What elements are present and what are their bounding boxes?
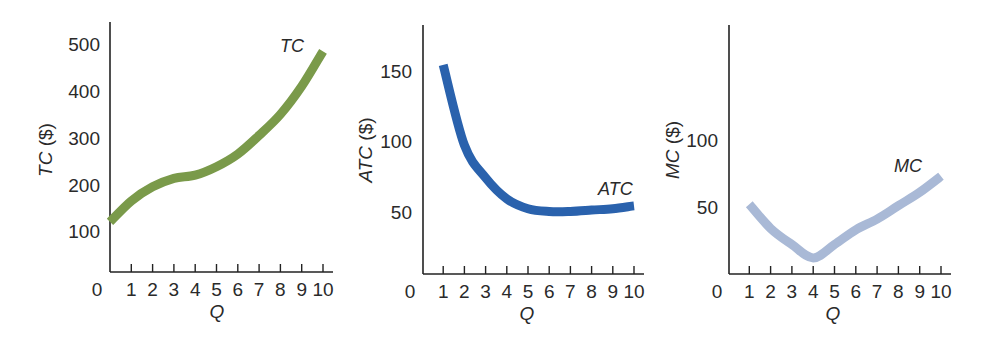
y-tick-label: 200: [68, 175, 100, 196]
y-tick-label: 300: [68, 128, 100, 149]
x-tick-label: 2: [459, 281, 470, 302]
x-tick-label: 1: [126, 279, 137, 300]
y-tick-label: 50: [391, 202, 412, 223]
mc-curve: [749, 176, 941, 258]
y-tick-label: 100: [380, 131, 412, 152]
x-tick-label: 2: [765, 281, 776, 302]
y-tick-label: 150: [380, 61, 412, 82]
x-tick-label: 4: [190, 279, 201, 300]
marginal-cost-chart: 12345678910050100QMC ($)MC: [662, 25, 952, 324]
average-total-cost-chart: 12345678910050100150QATC ($)ATC: [355, 25, 645, 324]
x-tick-label: 2: [147, 279, 158, 300]
x-tick-label: 9: [914, 281, 925, 302]
x-tick-label: 8: [586, 281, 597, 302]
x-tick-label: 9: [296, 279, 307, 300]
y-axis-title-name: MC: [662, 149, 683, 179]
x-tick-label: 3: [169, 279, 180, 300]
origin-label: 0: [712, 281, 723, 302]
y-tick-label: 400: [68, 81, 100, 102]
y-axis-title-name: TC: [35, 151, 56, 177]
x-tick-label: 7: [565, 281, 576, 302]
x-tick-label: 6: [544, 281, 555, 302]
x-tick-label: 5: [829, 281, 840, 302]
x-tick-label: 10: [312, 279, 333, 300]
x-tick-label: 1: [438, 281, 449, 302]
cost-curves-figure: 123456789100100200300400500QTC ($)TC 123…: [0, 0, 986, 342]
x-tick-label: 6: [851, 281, 862, 302]
atc-curve-label: ATC: [597, 179, 634, 199]
y-tick-label: 500: [68, 34, 100, 55]
y-tick-label: 100: [68, 221, 100, 242]
tc-curve-label: TC: [280, 36, 305, 56]
y-tick-label: 100: [686, 130, 718, 151]
y-axis-title-unit: ($): [35, 123, 56, 152]
x-axis-title: Q: [210, 301, 225, 322]
x-tick-label: 3: [480, 281, 491, 302]
x-tick-label: 10: [623, 281, 644, 302]
mc-curve-label: MC: [894, 156, 923, 176]
x-tick-label: 5: [211, 279, 222, 300]
y-axis-title-unit: ($): [662, 121, 683, 150]
origin-label: 0: [405, 281, 416, 302]
x-tick-label: 9: [608, 281, 619, 302]
y-tick-label: 50: [697, 197, 718, 218]
origin-label: 0: [92, 279, 103, 300]
y-axis-title: MC ($): [662, 121, 683, 179]
x-axis-title: Q: [520, 303, 535, 324]
x-tick-label: 10: [930, 281, 951, 302]
x-tick-label: 4: [502, 281, 513, 302]
y-axis-title-name: ATC: [355, 146, 376, 184]
x-tick-label: 6: [233, 279, 244, 300]
y-axis-title: TC ($): [35, 123, 56, 177]
y-axis-title: ATC ($): [355, 117, 376, 183]
tc-curve: [110, 51, 323, 222]
x-tick-label: 7: [872, 281, 883, 302]
y-axis-title-unit: ($): [355, 117, 376, 146]
x-tick-label: 5: [523, 281, 534, 302]
x-tick-label: 3: [787, 281, 798, 302]
x-tick-label: 1: [744, 281, 755, 302]
total-cost-chart: 123456789100100200300400500QTC ($)TC: [35, 22, 334, 322]
x-axis-title: Q: [826, 303, 841, 324]
x-tick-label: 7: [254, 279, 265, 300]
x-tick-label: 8: [275, 279, 286, 300]
x-tick-label: 8: [893, 281, 904, 302]
x-tick-label: 4: [808, 281, 819, 302]
